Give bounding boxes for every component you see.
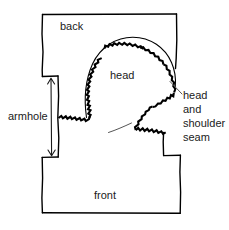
label-head-and-shoulder-seam: head and shoulder seam xyxy=(183,88,225,144)
armhole-measure-arrow xyxy=(48,78,56,156)
label-armhole: armhole xyxy=(8,110,48,123)
inner-leader-curve xyxy=(109,123,132,133)
label-head: head xyxy=(110,69,134,82)
armhole-seam-zigzag xyxy=(59,116,90,121)
sewing-pattern-diagram: back head front armhole head and shoulde… xyxy=(0,0,229,230)
label-front: front xyxy=(94,189,116,202)
label-hss-line-3: shoulder xyxy=(183,116,225,130)
head-and-shoulder-seam-zigzag xyxy=(87,43,176,134)
label-hss-line-1: head xyxy=(183,88,225,102)
label-hss-line-2: and xyxy=(183,102,225,116)
label-hss-line-4: seam xyxy=(183,130,225,144)
label-back: back xyxy=(60,20,83,33)
